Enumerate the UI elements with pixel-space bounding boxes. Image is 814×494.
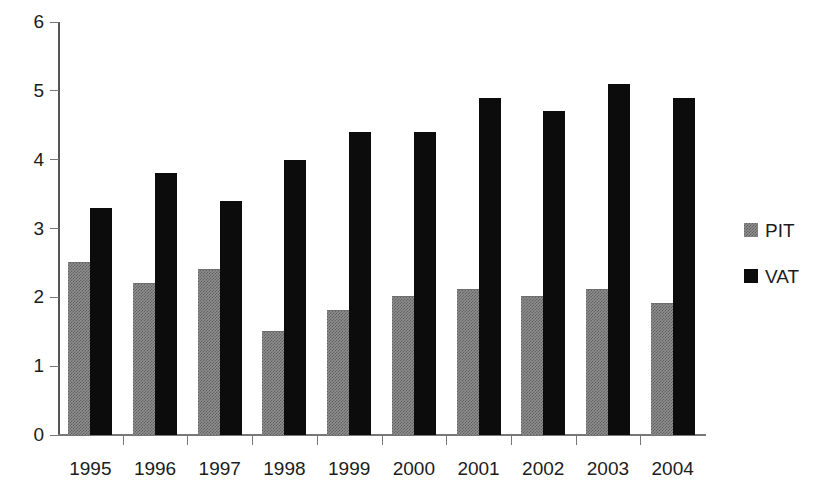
bar-vat-2003 bbox=[608, 84, 630, 435]
y-axis-tick-label: 2 bbox=[12, 287, 44, 306]
bar-vat-2000 bbox=[414, 132, 436, 435]
x-axis-tick-label-1999: 1999 bbox=[314, 458, 384, 480]
bar-vat-2002 bbox=[543, 111, 565, 435]
x-axis-tick bbox=[123, 436, 124, 445]
y-axis-tick-label: 0 bbox=[12, 425, 44, 444]
y-axis-tick-label: 3 bbox=[12, 219, 44, 238]
x-axis-tick-label-1997: 1997 bbox=[185, 458, 255, 480]
bar-vat-1997 bbox=[220, 201, 242, 435]
chart-legend: PITVAT bbox=[744, 219, 799, 311]
x-axis-tick-label-1995: 1995 bbox=[55, 458, 125, 480]
bar-pit-1996 bbox=[133, 283, 155, 435]
bar-pit-2000 bbox=[392, 296, 414, 435]
x-axis-tick bbox=[511, 436, 512, 445]
bar-vat-2001 bbox=[479, 98, 501, 435]
bar-vat-1999 bbox=[349, 132, 371, 435]
bar-pit-2004 bbox=[651, 303, 673, 435]
y-axis-tick-label: 4 bbox=[12, 150, 44, 169]
bar-pit-2002 bbox=[521, 296, 543, 435]
x-axis-tick-label-2001: 2001 bbox=[444, 458, 514, 480]
bar-vat-1996 bbox=[155, 173, 177, 435]
bar-pit-1998 bbox=[262, 331, 284, 435]
bar-pit-2001 bbox=[457, 289, 479, 435]
x-axis-tick bbox=[187, 436, 188, 445]
x-axis-tick-label-1998: 1998 bbox=[249, 458, 319, 480]
legend-label: VAT bbox=[765, 267, 799, 286]
x-axis-tick bbox=[446, 436, 447, 445]
x-axis-tick-label-2000: 2000 bbox=[379, 458, 449, 480]
legend-item-pit[interactable]: PIT bbox=[744, 219, 799, 241]
y-axis-tick-label: 1 bbox=[12, 356, 44, 375]
x-axis-tick bbox=[317, 436, 318, 445]
x-axis-tick-label-1996: 1996 bbox=[120, 458, 190, 480]
plot-area bbox=[58, 22, 705, 435]
vat-swatch-icon bbox=[744, 269, 758, 283]
x-axis-tick-label-2002: 2002 bbox=[508, 458, 578, 480]
pit-swatch-icon bbox=[744, 223, 758, 237]
bar-chart: 0123456 19951996199719981999200020012002… bbox=[0, 0, 814, 494]
x-axis-tick bbox=[640, 436, 641, 445]
bar-vat-2004 bbox=[673, 98, 695, 435]
bar-pit-1999 bbox=[327, 310, 349, 435]
bar-pit-1995 bbox=[68, 262, 90, 435]
bar-pit-1997 bbox=[198, 269, 220, 435]
bar-pit-2003 bbox=[586, 289, 608, 435]
x-axis-tick-label-2003: 2003 bbox=[573, 458, 643, 480]
legend-item-vat[interactable]: VAT bbox=[744, 265, 799, 287]
bar-vat-1998 bbox=[284, 160, 306, 435]
x-axis-tick-label-2004: 2004 bbox=[638, 458, 708, 480]
y-axis-tick-label: 5 bbox=[12, 81, 44, 100]
x-axis-tick bbox=[252, 436, 253, 445]
x-axis-tick bbox=[576, 436, 577, 445]
y-axis-tick-label: 6 bbox=[12, 12, 44, 31]
x-axis-tick bbox=[382, 436, 383, 445]
legend-label: PIT bbox=[765, 221, 795, 240]
bar-vat-1995 bbox=[90, 208, 112, 435]
